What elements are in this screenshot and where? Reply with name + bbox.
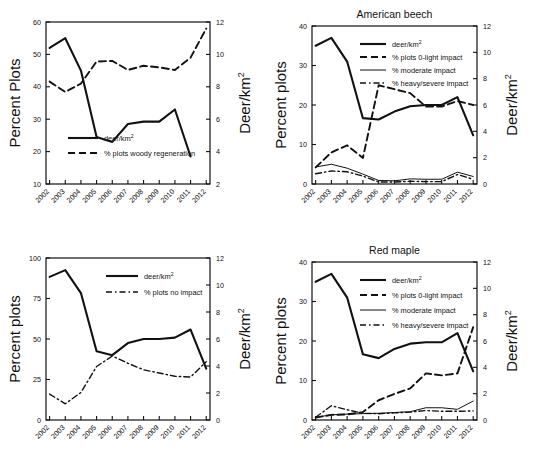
left-axis-tick-label: 100: [29, 254, 41, 263]
legend-label: % heavy/severe impact: [392, 79, 468, 88]
right-axis-tick-label: 10: [483, 48, 491, 57]
plot-area-top-left: 1020304050602468101220022003200420052006…: [0, 0, 268, 236]
figure-container: 1020304050602468101220022003200420052006…: [0, 0, 535, 472]
left-axis-tick-label: 20: [299, 101, 307, 110]
x-axis-tick-label: 2004: [65, 187, 83, 205]
plot-frame: [46, 22, 210, 184]
left-axis-title: Percent plots: [272, 297, 289, 385]
legend-label: % plots 0-light impact: [392, 53, 462, 62]
right-axis-title: Deer/km2: [236, 72, 253, 134]
right-axis-tick-label: 8: [483, 310, 487, 319]
right-axis-tick-label: 12: [483, 258, 491, 267]
x-axis-tick-label: 2005: [347, 187, 365, 205]
x-axis-tick-label: 2011: [442, 187, 459, 204]
panel-bottom-left: 0255075100024681012200220032004200520062…: [0, 236, 268, 472]
left-axis-tick-label: 0: [37, 416, 41, 425]
plot-area-bottom-right: Red maple0102030400246810122002200320042…: [268, 236, 535, 472]
left-axis-tick-label: 20: [299, 337, 307, 346]
series-line: [316, 401, 474, 417]
x-axis-tick-label: 2006: [96, 187, 114, 205]
right-axis-tick-label: 8: [216, 82, 220, 91]
left-axis-tick-label: 25: [33, 375, 41, 384]
x-axis-tick-label: 2005: [80, 423, 98, 441]
right-axis-tick-label: 10: [216, 281, 224, 290]
right-axis-tick-label: 2: [483, 389, 487, 398]
x-axis-tick-label: 2002: [299, 187, 317, 205]
left-axis-tick-label: 75: [33, 294, 41, 303]
x-axis-tick-label: 2008: [127, 423, 145, 441]
left-axis-tick-label: 10: [299, 140, 307, 149]
right-axis-tick-label: 12: [483, 22, 491, 31]
legend-label: % moderate impact: [392, 66, 456, 75]
panel-top-right: American beech01020304002468101220022003…: [268, 0, 535, 236]
x-axis-tick-label: 2003: [49, 423, 67, 441]
right-axis-tick-label: 8: [216, 308, 220, 317]
legend-label: % plots no impact: [144, 288, 202, 297]
left-axis-tick-label: 60: [33, 18, 41, 27]
right-axis-tick-label: 10: [483, 284, 491, 293]
right-axis-tick-label: 0: [483, 416, 487, 425]
x-axis-tick-label: 2012: [190, 423, 208, 441]
x-axis-tick-label: 2010: [425, 187, 443, 205]
x-axis-tick-label: 2005: [80, 187, 98, 205]
right-axis-title: Deer/km2: [503, 74, 520, 136]
left-axis-tick-label: 40: [299, 258, 307, 267]
left-axis-tick-label: 50: [33, 335, 41, 344]
x-axis-tick-label: 2012: [190, 187, 208, 205]
right-axis-tick-label: 2: [216, 180, 220, 189]
right-axis-tick-label: 12: [216, 18, 224, 27]
series-line: [50, 28, 207, 92]
panel-title: American beech: [357, 8, 433, 20]
left-axis-tick-label: 40: [33, 82, 41, 91]
legend-label: % plots 0-light impact: [392, 291, 462, 300]
right-axis-tick-label: 4: [483, 363, 487, 372]
right-axis-tick-label: 4: [216, 362, 220, 371]
left-axis-tick-label: 10: [33, 180, 41, 189]
left-axis-tick-label: 30: [33, 115, 41, 124]
x-axis-tick-label: 2010: [159, 187, 177, 205]
plot-area-bottom-left: 0255075100024681012200220032004200520062…: [0, 236, 268, 472]
x-axis-tick-label: 2008: [127, 187, 145, 205]
right-axis-title: Deer/km2: [236, 308, 253, 370]
legend-label: % heavy/severe impact: [392, 321, 468, 330]
right-axis-tick-label: 8: [483, 74, 487, 83]
plot-frame: [46, 258, 210, 420]
right-axis-tick-label: 2: [216, 389, 220, 398]
x-axis-tick-label: 2011: [442, 423, 459, 440]
x-axis-tick-label: 2007: [378, 423, 396, 441]
x-axis-tick-label: 2006: [96, 423, 114, 441]
legend-label: deer/km2: [104, 133, 134, 143]
right-axis-tick-label: 12: [216, 254, 224, 263]
panel-title: Red maple: [369, 244, 420, 256]
x-axis-tick-label: 2005: [347, 423, 365, 441]
legend: deer/km2% plots 0-light impact% moderate…: [360, 275, 468, 330]
right-axis-tick-label: 4: [216, 147, 220, 156]
series-line: [316, 327, 474, 417]
right-axis-tick-label: 6: [483, 101, 487, 110]
right-axis-tick-label: 0: [483, 180, 487, 189]
plot-frame: [312, 26, 477, 184]
x-axis-tick-label: 2004: [331, 423, 349, 441]
x-axis-tick-label: 2007: [112, 423, 130, 441]
x-axis-tick-label: 2002: [299, 423, 317, 441]
right-axis-tick-label: 10: [216, 50, 224, 59]
legend-label: % plots woody regeneration: [104, 149, 195, 158]
plot-frame: [312, 262, 477, 420]
x-axis-tick-label: 2006: [362, 187, 380, 205]
legend-label: deer/km2: [392, 39, 422, 49]
x-axis-tick-label: 2002: [33, 423, 51, 441]
x-axis-tick-label: 2003: [315, 187, 333, 205]
x-axis-tick-label: 2006: [362, 423, 380, 441]
left-axis-tick-label: 50: [33, 50, 41, 59]
legend-label: deer/km2: [392, 275, 422, 285]
x-axis-tick-label: 2012: [457, 187, 475, 205]
x-axis-tick-label: 2010: [159, 423, 177, 441]
x-axis-tick-label: 2008: [394, 423, 412, 441]
legend: deer/km2% plots no impact: [106, 271, 202, 297]
x-axis-tick-label: 2009: [410, 423, 428, 441]
x-axis-tick-label: 2007: [112, 187, 130, 205]
panel-top-left: 1020304050602468101220022003200420052006…: [0, 0, 268, 236]
right-axis-tick-label: 4: [483, 127, 487, 136]
left-axis-tick-label: 10: [299, 376, 307, 385]
left-axis-title: Percent plots: [6, 295, 23, 383]
